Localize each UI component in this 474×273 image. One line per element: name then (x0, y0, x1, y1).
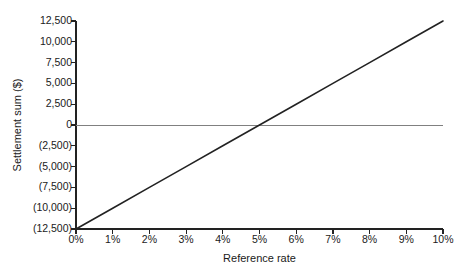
x-tick-label: 5% (240, 234, 280, 245)
x-tick-label: 8% (350, 234, 390, 245)
x-tick-label: 1% (93, 234, 133, 245)
x-tick-label: 0% (56, 234, 96, 245)
x-tick-label: 10% (423, 234, 463, 245)
x-tick-label: 6% (276, 234, 316, 245)
chart-container: Settlement sum ($) 12,50010,0007,5005,00… (0, 0, 474, 273)
x-tick-label: 3% (166, 234, 206, 245)
x-tick-label: 7% (313, 234, 353, 245)
x-axis-title: Reference rate (76, 252, 443, 264)
x-tick-label: 4% (203, 234, 243, 245)
x-tick-label: 2% (129, 234, 169, 245)
y-axis-ticks (71, 21, 76, 229)
x-tick-label: 9% (386, 234, 426, 245)
